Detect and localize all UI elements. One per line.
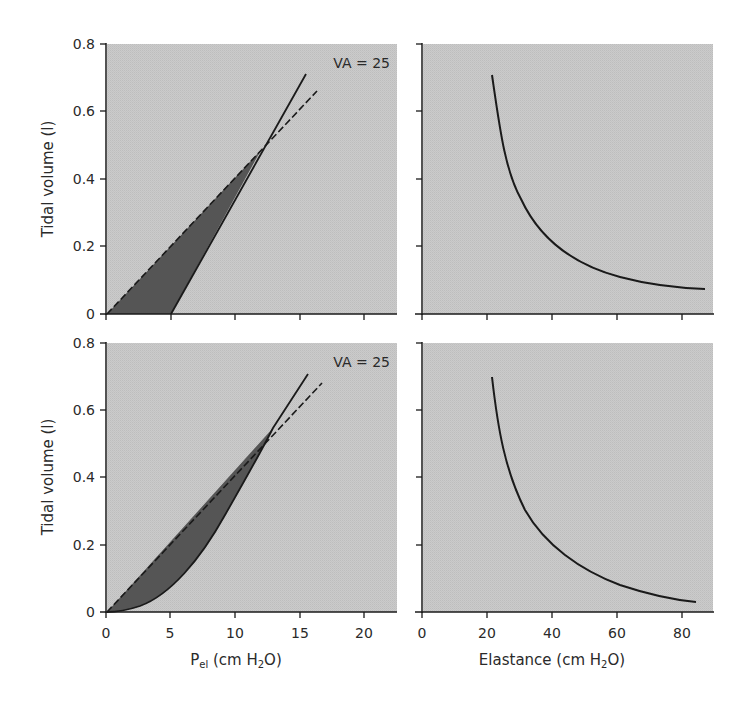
x-ticks <box>106 314 364 320</box>
x-axis-title-pressure: Pel (cm H2O) <box>190 651 282 670</box>
annotation-va: VA = 25 <box>333 55 390 71</box>
svg-text:0.2: 0.2 <box>73 238 95 254</box>
x-tick-labels: 0 5 10 15 20 <box>102 625 373 641</box>
y-axis-title: Tidal volume (l) <box>39 121 57 239</box>
svg-text:0.2: 0.2 <box>73 537 95 553</box>
svg-text:0.8: 0.8 <box>73 36 95 52</box>
y-ticks <box>416 343 422 545</box>
y-ticks <box>100 44 106 246</box>
x-axis-title-elastance: Elastance (cm H2O) <box>479 651 625 670</box>
x-tick-labels: 0 20 40 60 80 <box>418 625 691 641</box>
panel-top-left: VA = 25 0.8 0.6 0.4 0.2 0 Tidal volume (… <box>39 36 397 322</box>
svg-text:0: 0 <box>102 625 111 641</box>
y-ticks <box>416 44 422 246</box>
svg-text:5: 5 <box>166 625 175 641</box>
svg-text:0: 0 <box>418 625 427 641</box>
plot-background <box>423 44 713 314</box>
panel-bottom-left: VA = 25 0.8 0.6 0.4 0.2 0 0 5 10 15 <box>39 335 397 670</box>
svg-text:60: 60 <box>608 625 626 641</box>
x-ticks <box>422 612 682 618</box>
svg-text:0: 0 <box>86 306 95 322</box>
y-tick-labels: 0.8 0.6 0.4 0.2 0 <box>73 335 95 620</box>
svg-text:0.6: 0.6 <box>73 103 95 119</box>
svg-text:0.6: 0.6 <box>73 402 95 418</box>
svg-text:0.4: 0.4 <box>73 171 95 187</box>
svg-text:0: 0 <box>86 604 95 620</box>
svg-text:10: 10 <box>226 625 244 641</box>
panel-top-right <box>415 43 714 320</box>
svg-text:20: 20 <box>478 625 496 641</box>
y-tick-labels: 0.8 0.6 0.4 0.2 0 <box>73 36 95 322</box>
y-ticks <box>100 343 106 545</box>
x-ticks <box>422 314 682 320</box>
svg-text:0.4: 0.4 <box>73 469 95 485</box>
svg-text:15: 15 <box>291 625 309 641</box>
svg-text:20: 20 <box>355 625 373 641</box>
svg-text:0.8: 0.8 <box>73 335 95 351</box>
svg-text:80: 80 <box>673 625 691 641</box>
panel-bottom-right: 0 20 40 60 80 Elastance (cm H2O) <box>415 342 714 670</box>
figure: VA = 25 0.8 0.6 0.4 0.2 0 Tidal volume (… <box>0 0 741 708</box>
svg-text:40: 40 <box>543 625 561 641</box>
plot-background <box>423 343 713 612</box>
y-axis-title: Tidal volume (l) <box>39 419 57 537</box>
x-ticks <box>106 612 364 618</box>
annotation-va: VA = 25 <box>333 354 390 370</box>
